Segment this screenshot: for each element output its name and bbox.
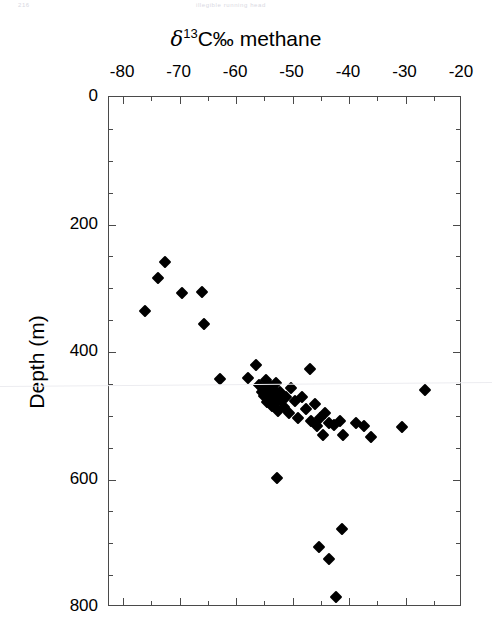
y-tick-mark-right <box>456 575 460 576</box>
y-tick-mark-left <box>109 543 113 544</box>
isotope-superscript: 13 <box>183 26 197 41</box>
y-axis-tick-labels: 0200400600800 <box>0 0 108 626</box>
data-point <box>195 286 208 299</box>
x-tick-mark-bottom <box>321 601 322 605</box>
y-tick-mark-right <box>456 288 460 289</box>
x-tick-mark-bottom <box>293 598 294 605</box>
y-tick-mark-right <box>456 161 460 162</box>
y-tick-mark-right <box>456 511 460 512</box>
y-tick-mark-right <box>453 225 460 226</box>
chart-figure: 216 illegible running head δ13C‰ methane… <box>0 0 492 626</box>
x-tick-mark-top <box>406 97 407 104</box>
x-tick-mark-top <box>349 97 350 104</box>
delta-symbol: δ <box>171 27 184 51</box>
x-tick-label: -50 <box>279 62 304 82</box>
x-tick-mark-top <box>264 97 265 101</box>
x-tick-label: -30 <box>392 62 417 82</box>
data-point <box>242 372 255 385</box>
y-tick-mark-right <box>456 448 460 449</box>
x-tick-label: -80 <box>110 62 135 82</box>
data-point <box>175 287 188 300</box>
data-point <box>330 591 343 604</box>
x-tick-mark-top <box>123 97 124 104</box>
y-tick-mark-left <box>109 129 113 130</box>
x-tick-mark-bottom <box>434 601 435 605</box>
data-point <box>159 256 172 269</box>
data-point <box>139 305 152 318</box>
y-tick-label: 600 <box>70 470 98 488</box>
y-tick-mark-right <box>456 193 460 194</box>
x-tick-mark-top <box>180 97 181 104</box>
x-tick-label: -40 <box>336 62 361 82</box>
x-tick-mark-bottom <box>208 601 209 605</box>
x-tick-mark-bottom <box>264 601 265 605</box>
y-tick-mark-left <box>109 416 113 417</box>
data-point <box>336 522 349 535</box>
y-tick-label: 200 <box>70 215 98 233</box>
data-point <box>249 359 262 372</box>
x-tick-mark-bottom <box>406 598 407 605</box>
data-point <box>396 421 409 434</box>
x-tick-label: -70 <box>166 62 191 82</box>
y-tick-mark-left <box>109 575 113 576</box>
x-tick-mark-bottom <box>236 598 237 605</box>
y-tick-mark-left <box>109 161 113 162</box>
y-tick-mark-right <box>453 352 460 353</box>
x-tick-mark-top <box>208 97 209 101</box>
chart-title-text: C‰ methane <box>198 27 322 50</box>
y-tick-mark-left <box>109 288 113 289</box>
data-point <box>271 471 284 484</box>
y-tick-label: 0 <box>89 87 98 105</box>
running-head-artifact: illegible running head <box>196 2 266 8</box>
x-tick-mark-bottom <box>151 601 152 605</box>
y-tick-mark-right <box>456 256 460 257</box>
data-point <box>198 318 211 331</box>
data-point <box>152 272 165 285</box>
x-tick-mark-bottom <box>377 601 378 605</box>
y-tick-mark-left <box>109 320 113 321</box>
y-tick-label: 800 <box>70 597 98 615</box>
y-tick-mark-left <box>109 480 116 481</box>
y-tick-mark-left <box>109 448 113 449</box>
x-tick-mark-bottom <box>123 598 124 605</box>
y-tick-mark-right <box>456 416 460 417</box>
x-tick-mark-top <box>434 97 435 101</box>
data-point <box>313 541 326 554</box>
y-tick-mark-right <box>456 384 460 385</box>
x-tick-mark-top <box>293 97 294 104</box>
y-tick-mark-left <box>109 193 113 194</box>
data-point <box>364 431 377 444</box>
plot-area <box>108 96 461 606</box>
y-tick-mark-right <box>453 480 460 481</box>
y-tick-label: 400 <box>70 342 98 360</box>
x-tick-mark-top <box>377 97 378 101</box>
data-point <box>322 553 335 566</box>
y-tick-mark-right <box>456 129 460 130</box>
y-tick-mark-left <box>109 511 113 512</box>
y-tick-mark-left <box>109 352 116 353</box>
data-point <box>419 384 432 397</box>
data-point <box>337 429 350 442</box>
x-tick-mark-bottom <box>180 598 181 605</box>
y-tick-mark-right <box>456 543 460 544</box>
x-tick-mark-top <box>151 97 152 101</box>
x-tick-mark-top <box>321 97 322 101</box>
y-tick-mark-right <box>456 320 460 321</box>
x-tick-mark-top <box>236 97 237 104</box>
x-tick-label: -60 <box>223 62 248 82</box>
y-axis-title: Depth (m) <box>26 262 48 462</box>
x-tick-mark-bottom <box>349 598 350 605</box>
y-tick-mark-left <box>109 256 113 257</box>
data-point <box>303 362 316 375</box>
x-tick-label: -20 <box>449 62 474 82</box>
y-tick-mark-left <box>109 225 116 226</box>
